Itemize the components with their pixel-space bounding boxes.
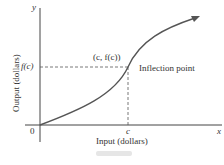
inflection-point-label: Inflection point (139, 63, 195, 73)
origin-label: 0 (30, 126, 35, 136)
c-tick-label: c (126, 126, 130, 136)
fc-tick-label: f(c) (21, 61, 34, 71)
inflection-diagram: y x 0 c f(c) (c, f(c)) Inflection point … (0, 0, 224, 165)
y-axis-symbol: y (32, 2, 36, 12)
blurred-caption (96, 151, 132, 156)
y-axis-label: Output (dollars) (11, 53, 21, 113)
x-axis-symbol: x (217, 126, 221, 136)
x-axis-label: Input (dollars) (96, 136, 148, 146)
point-coordinate-label: (c, f(c)) (93, 52, 120, 62)
